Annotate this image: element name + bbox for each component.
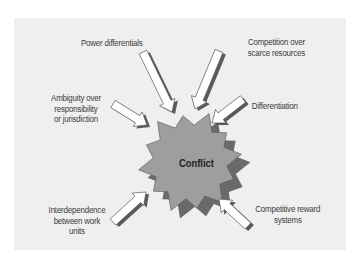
label-competitive-reward-systems: Competitive reward systems (255, 204, 320, 225)
label-line: Interdependence (49, 205, 106, 216)
label-line: or jurisdiction (51, 114, 101, 125)
arrow-body (111, 100, 147, 126)
label-line: Power differentials (81, 38, 143, 49)
label-line: Competitive reward (255, 204, 320, 215)
arrow-competition (191, 49, 226, 111)
arrow-body (219, 199, 251, 229)
label-line: Ambiguity over (51, 93, 101, 104)
label-line: responsibility (51, 104, 101, 115)
label-line: between work (49, 216, 106, 227)
label-differentiation: Differentiation (252, 101, 298, 112)
arrow-body (110, 192, 146, 225)
arrow-differentiation (212, 96, 249, 125)
label-line: Competition over (248, 37, 305, 48)
label-power-differentials: Power differentials (81, 38, 143, 49)
arrow-body (191, 49, 223, 109)
arrow-interdependence (110, 192, 149, 227)
label-line: scarce resources (248, 48, 305, 59)
label-ambiguity: Ambiguity over responsibility or jurisdi… (51, 93, 101, 125)
arrow-competitive-reward (219, 199, 254, 231)
label-line: units (49, 226, 106, 237)
label-line: systems (255, 215, 320, 226)
label-interdependence: Interdependence between work units (49, 205, 106, 237)
label-competition-over-scarce-resources: Competition over scarce resources (248, 37, 305, 58)
conflict-label: Conflict (179, 157, 214, 169)
label-line: Differentiation (252, 101, 298, 112)
arrow-ambiguity (111, 100, 150, 128)
arrow-body (139, 50, 175, 112)
arrow-power-differentials (139, 50, 178, 114)
